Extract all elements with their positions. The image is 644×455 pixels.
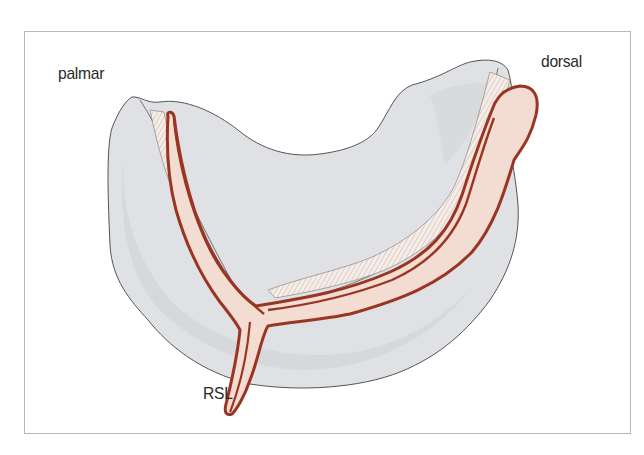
label-palmar: palmar bbox=[58, 64, 104, 84]
label-rsl: RSL bbox=[203, 384, 233, 404]
label-dorsal: dorsal bbox=[541, 52, 582, 72]
